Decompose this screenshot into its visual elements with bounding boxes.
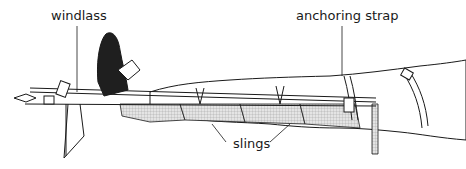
label-anchoring-strap: anchoring strap	[296, 9, 399, 22]
slings-leader-right	[270, 124, 290, 142]
traction-splint-diagram: windlass anchoring strap slings	[0, 0, 466, 169]
slings-leader-left	[212, 124, 226, 142]
shoe	[97, 33, 140, 96]
label-slings: slings	[233, 137, 270, 150]
label-windlass: windlass	[51, 9, 107, 22]
